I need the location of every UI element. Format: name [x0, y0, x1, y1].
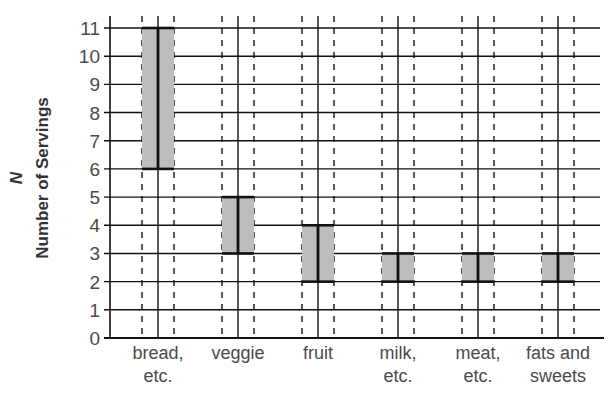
y-tick-label: 11 [80, 18, 100, 39]
y-tick-labels: 01234567891011 [79, 18, 101, 349]
x-category-label: bread, [132, 343, 183, 363]
y-tick-label: 6 [89, 159, 100, 180]
y-tick-label: 10 [79, 46, 100, 67]
y-axis-label: NNumber of Servings [7, 97, 52, 259]
y-tick-label: 7 [89, 131, 100, 152]
axes [104, 16, 604, 339]
x-category-label: fruit [303, 343, 333, 363]
y-tick-label: 8 [89, 103, 100, 124]
x-category-label: fats and [526, 343, 590, 363]
x-category-label: etc. [463, 366, 492, 386]
y-tick-label: 1 [89, 300, 100, 321]
y-tick-label: 9 [89, 74, 100, 95]
gridlines [104, 28, 600, 338]
y-tick-label: 3 [89, 243, 100, 264]
y-axis-symbol: N [7, 171, 26, 184]
x-category-label: etc. [383, 366, 412, 386]
y-axis-title: Number of Servings [33, 97, 52, 259]
servings-range-chart: NNumber of Servings 01234567891011 bread… [0, 0, 609, 395]
x-category-label: etc. [143, 366, 172, 386]
x-category-labels: bread,etc.veggiefruitmilk,etc.meat,etc.f… [132, 343, 590, 386]
category-dashed-guides [142, 16, 574, 338]
y-tick-label: 5 [89, 187, 100, 208]
y-tick-label: 4 [89, 215, 100, 236]
y-tick-label: 2 [89, 272, 100, 293]
x-category-label: meat, [455, 343, 500, 363]
x-category-label: milk, [380, 343, 417, 363]
x-category-label: veggie [211, 343, 264, 363]
range-bars [142, 28, 574, 282]
y-tick-label: 0 [89, 328, 100, 349]
x-category-label: sweets [530, 366, 586, 386]
category-center-lines [158, 16, 558, 338]
